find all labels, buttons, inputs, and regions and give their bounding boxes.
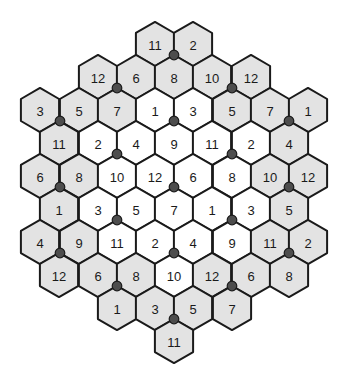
hex-number: 3 bbox=[36, 104, 43, 119]
hex-number: 2 bbox=[247, 137, 254, 152]
hex-cell: 7 bbox=[213, 286, 251, 330]
vertex-dot-icon bbox=[169, 182, 179, 192]
vertex-dot-icon bbox=[112, 281, 122, 291]
hex-number: 5 bbox=[132, 203, 139, 218]
hex-number: 9 bbox=[228, 236, 235, 251]
hex-cell: 8 bbox=[270, 253, 308, 297]
vertex-dot-icon bbox=[227, 149, 237, 159]
hex-number: 5 bbox=[75, 104, 82, 119]
vertex-dot-icon bbox=[55, 182, 65, 192]
vertex-dot-icon bbox=[169, 314, 179, 324]
vertex-dot-icon bbox=[55, 248, 65, 258]
vertex-dot-icon bbox=[112, 149, 122, 159]
hex-number: 2 bbox=[94, 137, 101, 152]
hex-cell: 12 bbox=[40, 253, 78, 297]
vertex-dot-icon bbox=[284, 182, 294, 192]
hex-number: 3 bbox=[151, 302, 158, 317]
hex-number: 6 bbox=[189, 170, 196, 185]
hex-number: 12 bbox=[148, 170, 162, 185]
hex-number: 4 bbox=[285, 137, 292, 152]
hex-number: 12 bbox=[244, 71, 258, 86]
hex-number: 1 bbox=[55, 203, 62, 218]
hex-number: 9 bbox=[75, 236, 82, 251]
hex-number: 5 bbox=[285, 203, 292, 218]
vertex-dot-icon bbox=[284, 248, 294, 258]
vertex-dot-icon bbox=[227, 281, 237, 291]
vertex-dot-icon bbox=[55, 116, 65, 126]
hex-number: 5 bbox=[189, 302, 196, 317]
hex-cells: 1121268101235713571112491124681012681012… bbox=[21, 22, 327, 363]
hex-number: 11 bbox=[52, 137, 66, 152]
vertex-dot-icon bbox=[169, 116, 179, 126]
hex-cell: 11 bbox=[155, 319, 193, 363]
hex-number: 12 bbox=[301, 170, 315, 185]
hex-number: 12 bbox=[91, 71, 105, 86]
hex-number: 7 bbox=[170, 203, 177, 218]
hex-board: 1121268101235713571112491124681012681012… bbox=[0, 0, 346, 377]
hex-number: 1 bbox=[151, 104, 158, 119]
vertex-dot-icon bbox=[112, 215, 122, 225]
hex-number: 6 bbox=[94, 269, 101, 284]
hex-number: 3 bbox=[94, 203, 101, 218]
hex-number: 6 bbox=[247, 269, 254, 284]
hex-number: 11 bbox=[205, 137, 219, 152]
hex-number: 6 bbox=[132, 71, 139, 86]
hex-number: 2 bbox=[151, 236, 158, 251]
hex-number: 8 bbox=[285, 269, 292, 284]
hex-number: 7 bbox=[228, 302, 235, 317]
hex-number: 4 bbox=[36, 236, 43, 251]
hex-number: 8 bbox=[75, 170, 82, 185]
vertex-dot-icon bbox=[227, 83, 237, 93]
vertex-dot-icon bbox=[227, 215, 237, 225]
vertex-dot-icon bbox=[169, 50, 179, 60]
hex-number: 1 bbox=[304, 104, 311, 119]
hex-number: 6 bbox=[36, 170, 43, 185]
hex-number: 3 bbox=[247, 203, 254, 218]
hex-number: 1 bbox=[113, 302, 120, 317]
hex-number: 10 bbox=[205, 71, 219, 86]
hex-cell: 1 bbox=[98, 286, 136, 330]
hex-number: 8 bbox=[132, 269, 139, 284]
hex-number: 4 bbox=[132, 137, 139, 152]
hex-number: 5 bbox=[228, 104, 235, 119]
hex-number: 11 bbox=[148, 38, 162, 53]
hex-number: 12 bbox=[205, 269, 219, 284]
hex-number: 1 bbox=[208, 203, 215, 218]
hex-number: 9 bbox=[170, 137, 177, 152]
hex-number: 11 bbox=[263, 236, 277, 251]
hex-number: 12 bbox=[52, 269, 66, 284]
hex-number: 10 bbox=[167, 269, 181, 284]
vertex-dot-icon bbox=[169, 248, 179, 258]
hex-number: 4 bbox=[189, 236, 196, 251]
hex-number: 11 bbox=[167, 335, 181, 350]
hex-number: 2 bbox=[189, 38, 196, 53]
hex-number: 3 bbox=[189, 104, 196, 119]
hex-number: 7 bbox=[266, 104, 273, 119]
hex-number: 7 bbox=[113, 104, 120, 119]
hex-number: 8 bbox=[228, 170, 235, 185]
hex-number: 8 bbox=[170, 71, 177, 86]
hex-number: 11 bbox=[110, 236, 124, 251]
hex-number: 10 bbox=[110, 170, 124, 185]
vertex-dot-icon bbox=[284, 116, 294, 126]
hex-number: 2 bbox=[304, 236, 311, 251]
hex-number: 10 bbox=[263, 170, 277, 185]
vertex-dot-icon bbox=[112, 83, 122, 93]
